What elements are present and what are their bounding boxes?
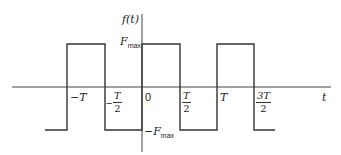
- tick-minus-half-T-sign: −: [106, 98, 112, 109]
- neg-fmax-label: −Fmax: [144, 126, 174, 139]
- tick-half-T: T 2: [182, 91, 191, 114]
- tick-minus-half-T: T 2: [113, 91, 122, 114]
- x-axis-label: t: [322, 92, 326, 103]
- y-axis-label: f(t): [122, 14, 139, 25]
- tick-three-half-T: 3T 2: [256, 91, 271, 114]
- tick-T: T: [220, 92, 227, 103]
- square-wave-figure: f(t) t Fmax −Fmax −T − T 2 0 T 2 T 3T 2: [0, 0, 341, 155]
- tick-minus-T: −T: [70, 92, 87, 103]
- fmax-label: Fmax: [120, 36, 141, 49]
- tick-zero: 0: [145, 92, 151, 103]
